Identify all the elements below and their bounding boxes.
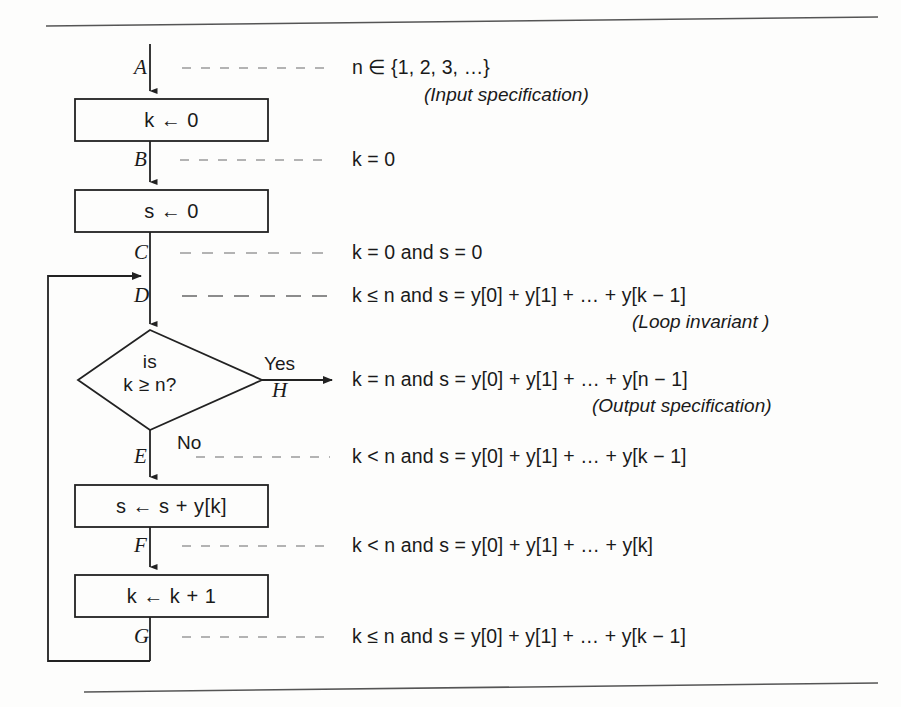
point-label-A: A	[134, 55, 147, 80]
point-label-E: E	[134, 444, 147, 469]
point-label-C: C	[134, 240, 148, 265]
assertion-A: n ∈ {1, 2, 3, …}	[352, 56, 490, 79]
top-rule	[46, 17, 878, 26]
decision-line1: is	[90, 351, 210, 373]
decision-line2: k ≥ n?	[90, 374, 210, 396]
box-s-add-label: s ← s + y[k]	[75, 495, 268, 519]
point-label-B: B	[134, 147, 147, 172]
assertion-C: k = 0 and s = 0	[352, 241, 483, 264]
assertion-G: k ≤ n and s = y[0] + y[1] + … + y[k − 1]	[352, 625, 686, 648]
point-label-D: D	[134, 283, 149, 308]
box-k-incr-label: k ← k + 1	[75, 585, 268, 609]
decision-no-label: No	[177, 432, 201, 454]
assertion-D: k ≤ n and s = y[0] + y[1] + … + y[k − 1]	[352, 284, 686, 307]
figure-canvas: k ← 0 s ← 0 s ← s + y[k] k ← k + 1 is k …	[0, 0, 901, 707]
assertion-B: k = 0	[352, 148, 395, 171]
assertion-H-note: (Output specification)	[592, 395, 772, 417]
decision-yes-label: Yes	[264, 353, 295, 375]
assertion-A-note: (Input specification)	[424, 84, 589, 106]
point-label-F: F	[134, 533, 147, 558]
box-s-init-label: s ← 0	[75, 200, 268, 224]
assertion-E: k < n and s = y[0] + y[1] + … + y[k − 1]	[352, 445, 687, 468]
bottom-rule	[84, 683, 878, 692]
assertion-H: k = n and s = y[0] + y[1] + … + y[n − 1]	[352, 368, 688, 391]
point-label-H: H	[272, 378, 287, 403]
assertion-F: k < n and s = y[0] + y[1] + … + y[k]	[352, 534, 653, 557]
point-label-G: G	[134, 624, 149, 649]
assertion-D-note: (Loop invariant )	[632, 311, 769, 333]
box-k-init-label: k ← 0	[75, 109, 268, 133]
